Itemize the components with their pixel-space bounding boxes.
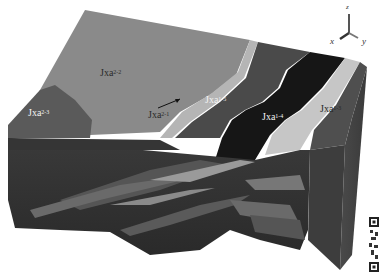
label-jxa1-3: Jxa1-3 — [320, 104, 341, 114]
axis-y-label: y — [362, 36, 366, 46]
axis-triad-icon — [340, 14, 358, 39]
label-jxa1-4: Jxa1-4 — [262, 112, 283, 122]
axis-z-label: z — [346, 3, 349, 11]
label-jxa2-3: Jxa2-3 — [28, 108, 49, 118]
axis-x-label: x — [330, 36, 334, 46]
label-jxa2-2: Jxa2-2 — [100, 68, 121, 78]
geological-block-diagram: Jxa2-2 Jxa2-3 Jxa2-1 Jxa1-5 Jxa1-4 Jxa1-… — [0, 0, 381, 276]
label-jxa2-1: Jxa2-1 — [148, 110, 169, 120]
label-jxa1-5: Jxa1-5 — [205, 95, 226, 105]
qr-code-icon — [369, 217, 379, 272]
block-model-graphic — [0, 0, 381, 276]
